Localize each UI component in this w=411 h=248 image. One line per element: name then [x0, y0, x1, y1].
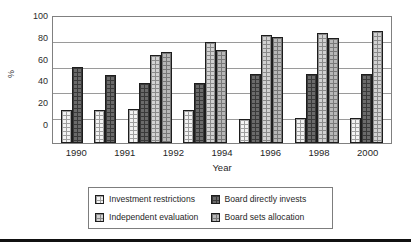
y-axis-label: %: [6, 70, 16, 78]
bar-group: [350, 17, 383, 143]
footer-rule: [0, 239, 411, 242]
legend-label: Independent evaluation: [109, 212, 198, 222]
bar: [94, 110, 105, 143]
y-tick-60: 60: [22, 56, 48, 65]
x-tick-1996: 1996: [248, 147, 294, 161]
x-tick-1991: 1991: [102, 147, 148, 161]
x-tick-2000: 2000: [345, 147, 391, 161]
bar-group: [239, 17, 283, 143]
y-axis-ticks: 100 80 60 40 20 0: [22, 0, 48, 144]
y-tick-20: 20: [22, 99, 48, 108]
bar: [350, 118, 361, 143]
bar: [194, 83, 205, 143]
y-tick-80: 80: [22, 34, 48, 43]
legend-swatch-icon: [211, 213, 220, 222]
chart-area: % 100 80 60 40 20 0 1990 1991 1992 1994 …: [0, 0, 411, 182]
bar-group: [61, 17, 83, 143]
bar: [139, 83, 150, 143]
chart-figure: % 100 80 60 40 20 0 1990 1991 1992 1994 …: [0, 0, 411, 248]
chart-legend: Investment restrictions Board directly i…: [88, 187, 333, 229]
x-tick-1994: 1994: [199, 147, 245, 161]
bar-group: [94, 17, 116, 143]
bar: [61, 110, 72, 143]
y-tick-0: 0: [22, 121, 48, 130]
bar: [261, 35, 272, 143]
legend-item-board-directly-invests: Board directly invests: [211, 194, 327, 204]
legend-item-independent-evaluation: Independent evaluation: [95, 212, 211, 222]
bar: [306, 74, 317, 143]
legend-swatch-icon: [95, 195, 104, 204]
legend-item-investment-restrictions: Investment restrictions: [95, 194, 211, 204]
y-tick-100: 100: [22, 12, 48, 21]
bar: [317, 33, 328, 143]
bar: [161, 52, 172, 143]
bar-group: [295, 17, 339, 143]
bar-group: [128, 17, 172, 143]
bar: [295, 118, 306, 143]
legend-label: Board directly invests: [225, 194, 307, 204]
bar: [183, 110, 194, 143]
bar: [372, 31, 383, 143]
bar: [128, 109, 139, 143]
plot-frame: [52, 16, 392, 144]
bar: [72, 67, 83, 143]
bar: [361, 74, 372, 143]
x-tick-1990: 1990: [53, 147, 99, 161]
bar: [205, 42, 216, 143]
bar: [150, 55, 161, 143]
x-tick-1992: 1992: [150, 147, 196, 161]
legend-item-board-sets-allocation: Board sets allocation: [211, 212, 327, 222]
x-axis-label: Year: [52, 162, 392, 173]
bar-groups: [53, 17, 391, 143]
bar: [272, 37, 283, 143]
legend-label: Investment restrictions: [109, 194, 195, 204]
bar: [239, 119, 250, 143]
bar: [216, 50, 227, 143]
x-tick-1998: 1998: [296, 147, 342, 161]
bar: [105, 75, 116, 143]
legend-swatch-icon: [211, 195, 220, 204]
legend-swatch-icon: [95, 213, 104, 222]
bar: [328, 38, 339, 143]
bar: [250, 74, 261, 143]
legend-label: Board sets allocation: [225, 212, 305, 222]
bar-group: [183, 17, 227, 143]
y-tick-40: 40: [22, 77, 48, 86]
x-axis-ticks: 1990 1991 1992 1994 1996 1998 2000: [52, 147, 392, 161]
